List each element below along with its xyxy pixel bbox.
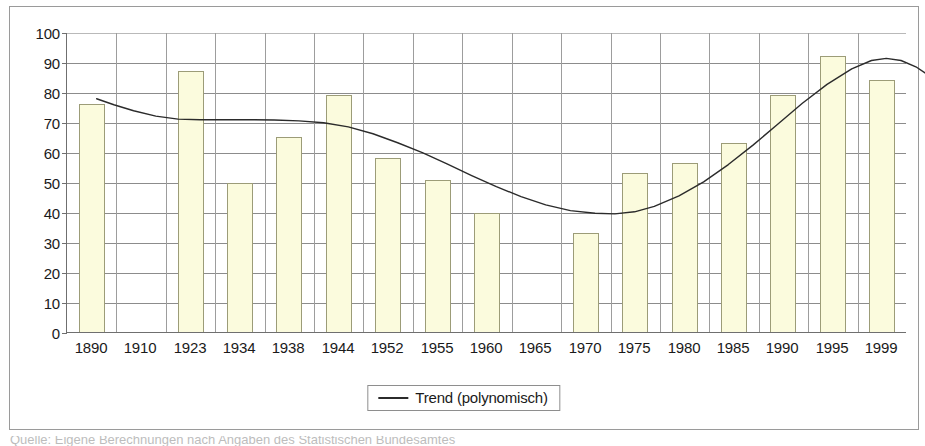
source-caption: Quelle: Eigene Berechnungen nach Angaben… [10, 436, 510, 446]
bar-1999 [869, 80, 895, 332]
bar-1923 [178, 71, 204, 332]
y-axis-tick-label: 40 [44, 205, 60, 222]
bar-1995 [820, 56, 846, 332]
chart-legend: Trend (polynomisch) [367, 385, 560, 411]
bar-1952 [375, 158, 401, 332]
plot-area [66, 33, 906, 333]
x-axis-tick-label: 1890 [75, 339, 108, 356]
legend-item-label: Trend (polynomisch) [415, 389, 547, 406]
x-axis-tick-label: 1960 [470, 339, 503, 356]
bar-1975 [622, 173, 648, 332]
bar-1985 [721, 143, 747, 332]
y-axis-tick-label: 0 [52, 325, 60, 342]
x-axis-tick-label: 1980 [668, 339, 701, 356]
y-axis: 1009080706050403020100 [20, 33, 60, 333]
x-axis-tick-label: 1923 [174, 339, 207, 356]
y-axis-tick-label: 100 [36, 25, 60, 42]
y-axis-tick-mark [62, 333, 67, 334]
y-axis-tick-label: 90 [44, 55, 60, 72]
y-axis-tick-label: 30 [44, 235, 60, 252]
legend-line-icon [378, 397, 408, 399]
x-axis-tick-label: 1990 [766, 339, 799, 356]
y-axis-tick-label: 60 [44, 145, 60, 162]
x-axis-tick-label: 1910 [124, 339, 157, 356]
x-axis-tick-label: 1934 [223, 339, 256, 356]
x-axis-tick-label: 1995 [816, 339, 849, 356]
x-axis: 1890191019231934193819441952195519601965… [66, 339, 906, 365]
chart-frame: 1009080706050403020100 18901910192319341… [9, 6, 919, 430]
x-axis-tick-label: 1952 [371, 339, 404, 356]
bar-1960 [474, 213, 500, 332]
x-axis-tick-label: 1975 [618, 339, 651, 356]
x-axis-tick-label: 1970 [569, 339, 602, 356]
bar-1980 [672, 163, 698, 332]
x-axis-tick-label: 1938 [272, 339, 305, 356]
y-axis-tick-label: 20 [44, 265, 60, 282]
bar-1944 [326, 95, 352, 332]
x-axis-tick-label: 1999 [865, 339, 898, 356]
bar-1990 [770, 95, 796, 332]
bar-1890 [79, 104, 105, 332]
x-axis-tick-label: 1985 [717, 339, 750, 356]
y-axis-tick-label: 70 [44, 115, 60, 132]
y-axis-tick-label: 10 [44, 295, 60, 312]
y-axis-tick-label: 80 [44, 85, 60, 102]
source-caption-text: Quelle: Eigene Berechnungen nach Angaben… [10, 436, 510, 446]
bar-1970 [573, 233, 599, 332]
plot-wrapper: 1009080706050403020100 18901910192319341… [10, 7, 918, 429]
x-axis-tick-label: 1955 [421, 339, 454, 356]
x-axis-tick-label: 1965 [519, 339, 552, 356]
y-axis-tick-label: 50 [44, 175, 60, 192]
bar-series [67, 33, 906, 332]
bar-1955 [425, 180, 451, 332]
bar-1938 [276, 137, 302, 332]
x-axis-tick-label: 1944 [322, 339, 355, 356]
bar-1934 [227, 183, 253, 332]
